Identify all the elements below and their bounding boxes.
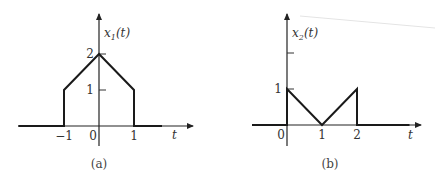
panel-b-caption: (b) [321,157,338,171]
panel-a-x-tick-label: 1 [130,129,138,143]
panel-a-y-tick-label: 1 [86,83,94,97]
panel-a-signal-label: x1(t) [104,26,130,42]
panel-a-y-tick-label: 2 [86,47,94,61]
scan-artifact-line [300,16,435,28]
panel-a-x-tick-label: −1 [55,129,73,143]
panel-b-signal-label: x2(t) [292,26,318,42]
panel-b-x-tick-label: 2 [353,128,361,142]
panel-b-t-axis-label: t [408,128,413,142]
panel-a-x-tick-label: 0 [89,129,97,143]
panel-b-x-tick-label: 1 [318,128,326,142]
panel-b-plot: 012 1 x2(t) t (b) [252,14,421,171]
panel-a-t-axis-label: t [172,128,177,142]
panel-a-caption: (a) [91,157,108,171]
panel-b-x-tick-label: 0 [277,128,285,142]
signal-figure: −101 12 x1(t) t (a) 012 1 x2(t) t (b) [0,0,435,184]
panel-a-plot: −101 12 x1(t) t (a) [18,14,193,171]
panel-b-y-tick-label: 1 [274,82,282,96]
